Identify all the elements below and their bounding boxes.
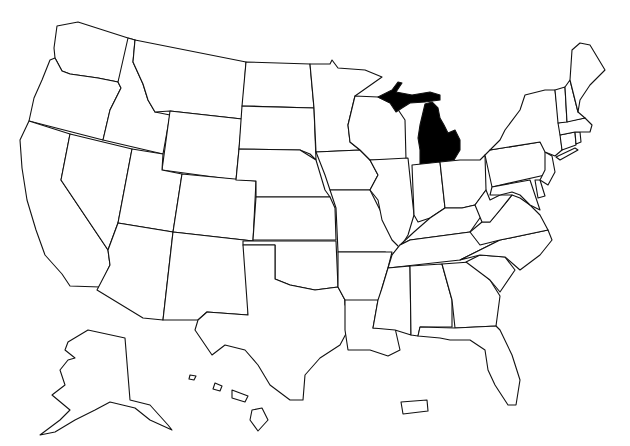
state-FL[interactable] <box>418 326 520 405</box>
state-KS[interactable] <box>253 197 336 240</box>
state-HI[interactable] <box>189 375 196 380</box>
state-CO[interactable] <box>173 174 256 241</box>
state-HI-2 <box>213 383 222 391</box>
us-states-map <box>0 0 630 446</box>
state-ME[interactable] <box>570 43 605 112</box>
state-MI-lower[interactable] <box>418 102 460 165</box>
state-WY[interactable] <box>162 111 242 180</box>
state-HI-3 <box>232 390 248 402</box>
state-PR[interactable] <box>401 400 428 414</box>
state-ND[interactable] <box>242 62 314 108</box>
state-AK[interactable] <box>40 330 172 435</box>
state-RI[interactable] <box>575 132 581 144</box>
state-HI-4 <box>250 408 268 431</box>
state-NM[interactable] <box>163 232 253 320</box>
